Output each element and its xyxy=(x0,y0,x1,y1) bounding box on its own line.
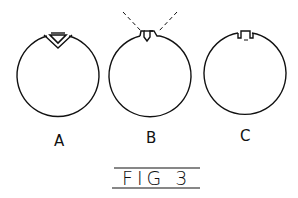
v-notch-a xyxy=(44,35,72,48)
circle-b-outline xyxy=(109,36,191,117)
dashed-guide-left xyxy=(123,12,141,31)
label-b: B xyxy=(146,129,156,147)
rectangular-slot-c xyxy=(238,31,253,38)
stepped-notch-b xyxy=(140,31,160,41)
circle-c-outline xyxy=(204,33,286,114)
panel-c xyxy=(204,31,286,114)
triangle-insert-a xyxy=(50,35,66,43)
panel-b xyxy=(109,12,191,117)
panel-a xyxy=(17,33,99,116)
figure-caption: FIG 3 xyxy=(122,167,191,189)
dashed-guide-right xyxy=(159,12,177,31)
label-c: C xyxy=(240,127,250,145)
fig-3-diagram: A B C FIG 3 xyxy=(0,0,298,198)
label-a: A xyxy=(54,132,65,150)
